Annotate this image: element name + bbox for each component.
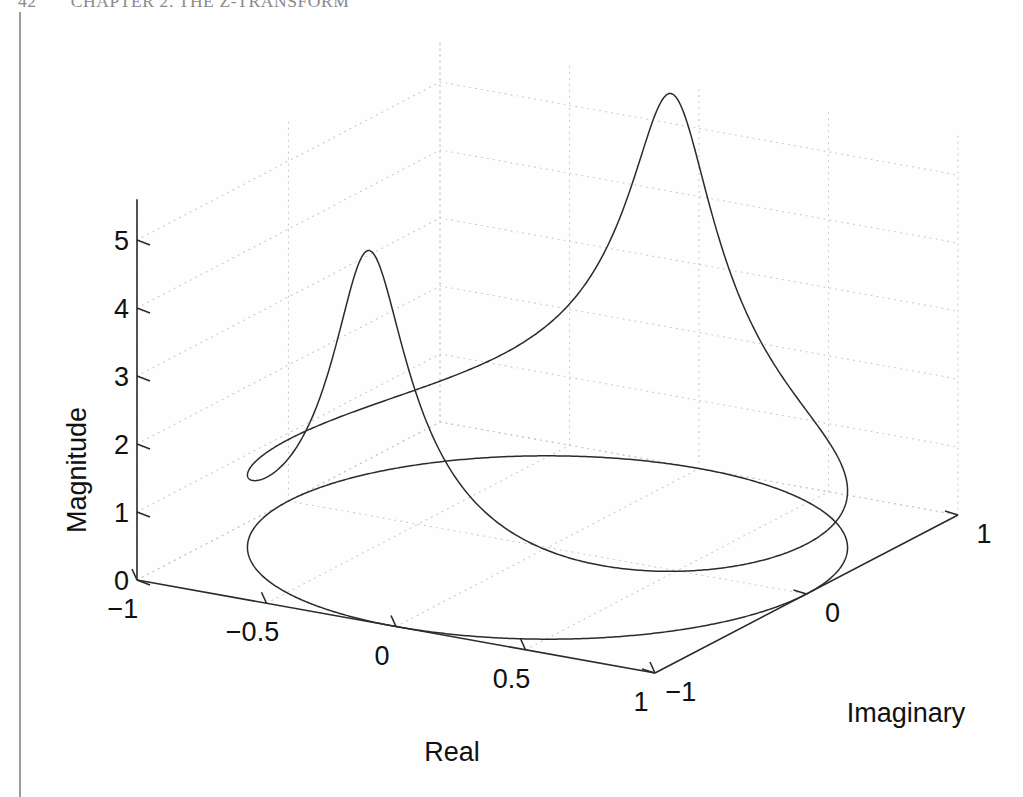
book-page: 42 CHAPTER 2. THE Z-TRANSFORM 012345−1−0… [0, 0, 1023, 797]
magnitude-space-curve [247, 93, 847, 571]
axis-title-imaginary: Imaginary [847, 698, 966, 728]
tick-label-magnitude-3: 3 [114, 362, 129, 392]
tick-label-real-0: −1 [108, 594, 139, 624]
axis-titles: Magnitude Real Imaginary [62, 407, 966, 767]
tick-label-imaginary-0: −1 [666, 677, 697, 707]
tick-labels: 012345−1−0.500.51−101 [108, 226, 992, 717]
tick-label-real-3: 0.5 [493, 664, 531, 694]
tick-label-real-2: 0 [374, 641, 389, 671]
tick-label-real-1: −0.5 [226, 617, 279, 647]
axis-title-real: Real [424, 737, 480, 767]
grid-lines [137, 41, 958, 673]
tick-label-real-4: 1 [633, 687, 648, 717]
tick-label-magnitude-0: 0 [114, 566, 129, 596]
tick-label-imaginary-1: 0 [825, 598, 840, 628]
unit-circle-base-curve [247, 456, 847, 639]
axis-title-magnitude: Magnitude [62, 407, 92, 533]
figure-zplane-magnitude: 012345−1−0.500.51−101 Magnitude Real Ima… [0, 0, 1023, 797]
tick-label-magnitude-2: 2 [114, 430, 129, 460]
plot-canvas: 012345−1−0.500.51−101 Magnitude Real Ima… [0, 0, 1023, 797]
tick-label-magnitude-1: 1 [114, 498, 129, 528]
data-curves [247, 93, 847, 639]
tick-label-imaginary-2: 1 [976, 519, 991, 549]
tick-label-magnitude-4: 4 [114, 294, 129, 324]
tick-label-magnitude-5: 5 [114, 226, 129, 256]
